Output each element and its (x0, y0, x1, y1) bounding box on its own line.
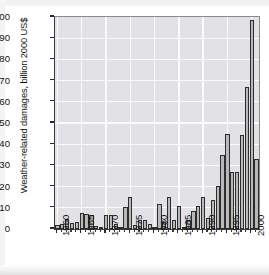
x-tick-mark-minor (134, 229, 135, 232)
x-tick-mark-minor (168, 229, 169, 232)
x-tick-mark-minor (182, 229, 183, 232)
x-tick-mark-minor (172, 229, 173, 232)
x-tick-mark-major (80, 229, 81, 233)
y-tick-label: 70 (0, 74, 10, 85)
x-tick-mark-major (202, 229, 203, 233)
y-tick-label: 60 (0, 95, 10, 106)
x-tick-mark-major (250, 229, 251, 233)
bar-series (55, 17, 259, 229)
x-tick-mark-minor (143, 229, 144, 232)
x-tick-mark-minor (192, 229, 193, 232)
y-tick-mark (50, 121, 54, 122)
y-tick-label: 50 (0, 117, 10, 128)
x-tick-mark-major (56, 229, 57, 233)
x-tick-mark-minor (119, 229, 120, 232)
y-tick-mark (50, 185, 54, 186)
y-tick-mark (50, 37, 54, 38)
y-tick-mark (50, 15, 54, 16)
x-tick-mark-major (129, 229, 130, 233)
y-tick-label: 0 (0, 223, 10, 234)
x-tick-mark-minor (61, 229, 62, 232)
x-tick-mark-minor (100, 229, 101, 232)
x-tick-mark-minor (216, 229, 217, 232)
x-tick-mark-major (226, 229, 227, 233)
bar (104, 215, 108, 229)
x-tick-label: 1980 (158, 215, 169, 236)
bar (196, 206, 200, 229)
x-tick-mark-major (104, 229, 105, 233)
x-tick-mark-minor (206, 229, 207, 232)
x-tick-label: 2000 (255, 215, 266, 236)
x-tick-label: 1990 (206, 215, 217, 236)
y-tick-mark (50, 206, 54, 207)
x-tick-mark-minor (114, 229, 115, 232)
y-tick-label: 20 (0, 180, 10, 191)
x-tick-mark-minor (66, 229, 67, 232)
x-tick-mark-minor (124, 229, 125, 232)
bar (220, 155, 224, 229)
bar (177, 206, 181, 229)
x-tick-mark-minor (85, 229, 86, 232)
y-tick-label: 90 (0, 32, 10, 43)
bar (201, 197, 205, 229)
bar (75, 222, 79, 229)
y-tick-mark (50, 100, 54, 101)
y-tick-mark (50, 164, 54, 165)
x-tick-mark-minor (187, 229, 188, 232)
x-tick-mark-minor (109, 229, 110, 232)
x-tick-mark-minor (231, 229, 232, 232)
bar (123, 207, 127, 229)
x-tick-mark-minor (221, 229, 222, 232)
bar (225, 134, 229, 229)
x-tick-label: 1970 (109, 215, 120, 236)
bar (128, 197, 132, 229)
scan-edge-bottom (0, 265, 269, 275)
bar (80, 213, 84, 229)
x-tick-mark-minor (138, 229, 139, 232)
y-tick-label: 80 (0, 53, 10, 64)
x-tick-mark-major (153, 229, 154, 233)
x-tick-mark-minor (197, 229, 198, 232)
y-tick-mark (50, 58, 54, 59)
x-tick-mark-minor (75, 229, 76, 232)
plot-area (54, 16, 260, 230)
x-tick-mark-minor (158, 229, 159, 232)
x-tick-mark-minor (245, 229, 246, 232)
scan-edge-top (0, 0, 269, 6)
y-tick-mark (50, 143, 54, 144)
x-tick-label: 1985 (182, 215, 193, 236)
bar (245, 87, 249, 229)
bar (148, 224, 152, 230)
x-tick-mark-minor (211, 229, 212, 232)
x-tick-label: 1965 (85, 215, 96, 236)
x-tick-mark-minor (95, 229, 96, 232)
x-tick-mark-minor (90, 229, 91, 232)
y-tick-label: 10 (0, 201, 10, 212)
bar (55, 225, 59, 229)
x-tick-mark-minor (255, 229, 256, 232)
x-tick-mark-minor (236, 229, 237, 232)
y-tick-label: 100 (0, 11, 10, 22)
x-tick-label: 1995 (230, 215, 241, 236)
y-tick-label: 30 (0, 159, 10, 170)
y-axis-title: Weather-related damages, billion 2000 US… (18, 0, 29, 215)
x-tick-mark-minor (240, 229, 241, 232)
y-tick-label: 40 (0, 138, 10, 149)
x-tick-label: 1975 (133, 215, 144, 236)
x-tick-label: 1960 (60, 215, 71, 236)
x-tick-mark-minor (148, 229, 149, 232)
chart-figure: Weather-related damages, billion 2000 US… (0, 0, 269, 275)
x-tick-mark-major (177, 229, 178, 233)
x-tick-mark-minor (70, 229, 71, 232)
bar (172, 220, 176, 229)
y-tick-mark (50, 227, 54, 228)
x-tick-mark-minor (163, 229, 164, 232)
y-tick-mark (50, 79, 54, 80)
bar (250, 20, 254, 229)
